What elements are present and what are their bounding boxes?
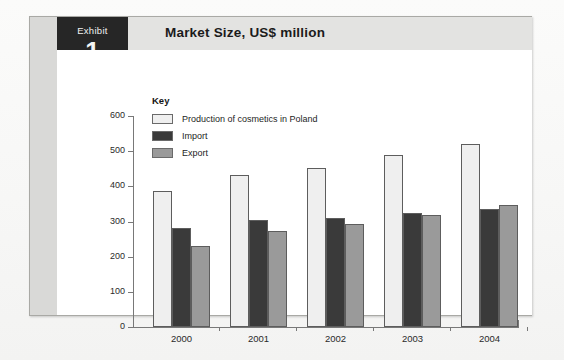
y-tick-label: 300 <box>95 216 125 226</box>
bar-2001-production <box>230 175 249 327</box>
x-tick-mark <box>296 327 297 331</box>
y-tick-mark <box>128 257 133 258</box>
y-tick-label: 100 <box>95 286 125 296</box>
bar-2003-production <box>384 155 403 327</box>
legend-title: Key <box>152 95 318 106</box>
x-tick-mark <box>219 327 220 331</box>
bar-2004-production <box>461 144 480 327</box>
x-tick-label-2000: 2000 <box>152 333 212 344</box>
bar-2002-production <box>307 168 326 327</box>
x-tick-mark <box>527 327 528 331</box>
y-tick-label: 200 <box>95 251 125 261</box>
left-gutter-strip <box>30 17 57 315</box>
y-tick-label: 400 <box>95 180 125 190</box>
y-tick-label: 500 <box>95 145 125 155</box>
x-axis-line <box>133 327 519 328</box>
exhibit-word-label: Exhibit <box>57 25 128 36</box>
exhibit-card: Market Size, US$ million Exhibit 1 Key P… <box>29 16 532 316</box>
title-band: Market Size, US$ million <box>57 17 532 50</box>
x-tick-mark <box>450 327 451 331</box>
bar-2004-export <box>499 205 518 327</box>
bar-2004-import <box>480 209 499 327</box>
x-tick-label-2003: 2003 <box>383 333 443 344</box>
legend-swatch-production <box>152 114 173 124</box>
legend-item-import: Import <box>152 128 318 143</box>
chart-plot-area: Key Production of cosmetics in Poland Im… <box>57 50 532 315</box>
exhibit-page: Market Size, US$ million Exhibit 1 Key P… <box>0 0 564 360</box>
y-tick-mark <box>128 116 133 117</box>
bar-2000-production <box>153 191 172 327</box>
legend-swatch-import <box>152 131 173 141</box>
legend-swatch-export <box>152 148 173 158</box>
y-tick-mark <box>128 327 133 328</box>
y-axis-line <box>133 116 134 328</box>
chart-legend: Key Production of cosmetics in Poland Im… <box>152 95 318 162</box>
bar-2001-export <box>268 231 287 327</box>
bar-2002-import <box>326 218 345 327</box>
legend-label-production: Production of cosmetics in Poland <box>182 114 318 124</box>
bar-2003-export <box>422 215 441 327</box>
bar-2001-import <box>249 220 268 327</box>
legend-item-production: Production of cosmetics in Poland <box>152 111 318 126</box>
x-axis-end-cap <box>518 320 519 328</box>
y-tick-label: 0 <box>95 321 125 331</box>
y-tick-mark <box>128 186 133 187</box>
x-tick-mark <box>373 327 374 331</box>
legend-item-export: Export <box>152 145 318 160</box>
y-tick-mark <box>128 292 133 293</box>
x-tick-label-2004: 2004 <box>460 333 520 344</box>
bar-2002-export <box>345 224 364 327</box>
legend-label-export: Export <box>182 148 208 158</box>
x-tick-label-2001: 2001 <box>229 333 289 344</box>
legend-label-import: Import <box>182 131 208 141</box>
bar-2000-import <box>172 228 191 327</box>
bar-2000-export <box>191 246 210 327</box>
bar-2003-import <box>403 213 422 327</box>
x-tick-label-2002: 2002 <box>306 333 366 344</box>
y-tick-label: 600 <box>95 110 125 120</box>
page-title: Market Size, US$ million <box>165 25 325 40</box>
y-tick-mark <box>128 151 133 152</box>
y-tick-mark <box>128 222 133 223</box>
